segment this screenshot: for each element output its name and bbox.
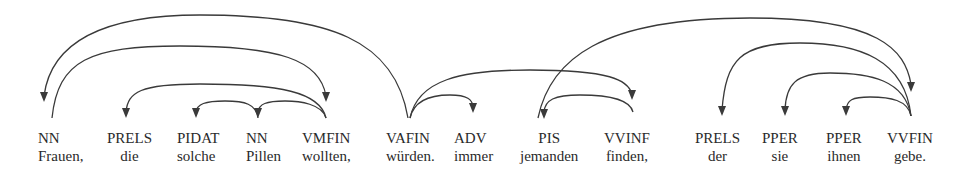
arc-vvfin-to-pper-ihnen <box>846 97 911 116</box>
pos-tag: VVINF <box>604 129 650 147</box>
token-3: PIDAT solche <box>177 129 220 165</box>
word: die <box>107 147 152 165</box>
token-13: VVFIN gebe. <box>887 129 933 165</box>
word: Frauen, <box>38 147 83 165</box>
token-12: PPER ihnen <box>826 129 862 165</box>
arc-vmfin-to-nn-pillen <box>258 101 326 118</box>
arrowhead-icon <box>40 92 48 102</box>
token-5: VMFIN wollten, <box>302 129 351 165</box>
token-6: VAFIN würden. <box>386 129 435 165</box>
pos-tag: PIS <box>520 129 578 147</box>
arrowhead-icon <box>842 106 850 116</box>
word: solche <box>177 147 220 165</box>
pos-tag: VMFIN <box>302 129 351 147</box>
arrowhead-icon <box>122 108 130 118</box>
pos-tag: ADV <box>454 129 493 147</box>
word: würden. <box>386 147 435 165</box>
arrowhead-icon <box>322 92 330 102</box>
token-10: PRELS der <box>695 129 740 165</box>
arrowhead-icon <box>540 109 548 119</box>
pos-tag: PPER <box>826 129 862 147</box>
arc-nn-pillen-to-pidat <box>196 101 258 118</box>
word: immer <box>454 147 493 165</box>
arc-vafin-to-nn-frauen <box>44 15 408 118</box>
pos-tag: PPER <box>762 129 798 147</box>
word: der <box>695 147 740 165</box>
pos-tag: VVFIN <box>887 129 933 147</box>
pos-tag: VAFIN <box>386 129 435 147</box>
token-8: PIS jemanden <box>520 129 578 165</box>
arc-vvinf-to-pis <box>544 95 633 112</box>
pos-tag: NN <box>246 129 281 147</box>
arc-pis-to-vvfin <box>538 18 911 118</box>
word: ihnen <box>826 147 862 165</box>
arrowhead-icon <box>469 103 477 113</box>
arrowhead-icon <box>907 82 915 92</box>
arrowhead-icon <box>628 90 636 100</box>
token-9: VVINF finden, <box>604 129 650 165</box>
word: finden, <box>604 147 650 165</box>
arc-vafin-to-vvinf <box>410 70 632 118</box>
arc-vvfin-to-prels <box>722 43 911 116</box>
pos-tag: NN <box>38 129 83 147</box>
arrowhead-icon <box>781 106 789 116</box>
arc-nn-frauen-to-vmfin <box>52 46 326 118</box>
word: Pillen <box>246 147 281 165</box>
arrowhead-icon <box>718 106 726 116</box>
token-7: ADV immer <box>454 129 493 165</box>
token-11: PPER sie <box>762 129 798 165</box>
pos-tag: PRELS <box>107 129 152 147</box>
arrowhead-icon <box>192 108 200 118</box>
dependency-diagram: NN Frauen, PRELS die PIDAT solche NN Pil… <box>0 0 971 173</box>
token-4: NN Pillen <box>246 129 281 165</box>
word: sie <box>762 147 798 165</box>
token-1: NN Frauen, <box>38 129 83 165</box>
word: gebe. <box>887 147 933 165</box>
word: wollten, <box>302 147 351 165</box>
word: jemanden <box>520 147 578 165</box>
token-2: PRELS die <box>107 129 152 165</box>
pos-tag: PIDAT <box>177 129 220 147</box>
pos-tag: PRELS <box>695 129 740 147</box>
